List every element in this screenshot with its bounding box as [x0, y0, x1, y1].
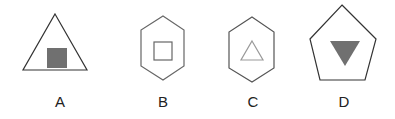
hexagon-outer-icon: [229, 17, 274, 82]
option-a-shape: [23, 14, 87, 70]
triangle-down-filled-icon: [330, 41, 360, 66]
option-d-shape: [310, 5, 376, 80]
hexagon-outer-icon: [141, 16, 184, 80]
answer-options-figure: A B C D: [0, 0, 395, 119]
option-b-label: B: [148, 93, 178, 110]
triangle-up-outline-icon: [241, 41, 263, 60]
option-b-shape: [141, 16, 184, 80]
square-filled-icon: [47, 48, 67, 68]
square-outline-icon: [154, 42, 172, 60]
option-d-label: D: [329, 93, 359, 110]
option-c-label: C: [238, 93, 268, 110]
option-c-shape: [229, 17, 274, 82]
option-a-label: A: [45, 93, 75, 110]
